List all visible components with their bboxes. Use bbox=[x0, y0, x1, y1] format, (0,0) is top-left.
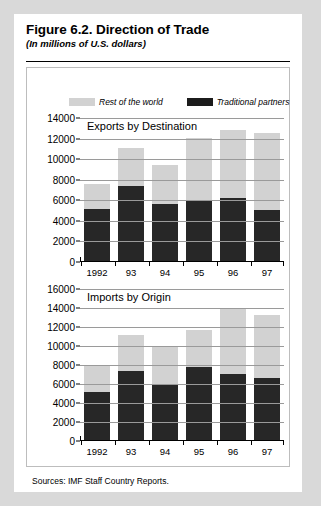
y-axis-tick-mark bbox=[76, 118, 80, 119]
x-axis-tick-label: 1992 bbox=[86, 267, 107, 278]
bar-segment-rest-of-world bbox=[152, 165, 179, 204]
bar-segment-traditional-partners bbox=[118, 186, 145, 262]
bar-segment-traditional-partners bbox=[152, 204, 179, 262]
y-axis-tick-mark bbox=[76, 220, 80, 221]
y-axis-tick-mark bbox=[76, 384, 80, 385]
y-axis-tick-label: 10000 bbox=[47, 154, 75, 165]
gridline bbox=[80, 159, 284, 160]
legend-item-rest-of-world: Rest of the world bbox=[69, 97, 163, 107]
figure-card: Figure 6.2. Direction of Trade (In milli… bbox=[14, 14, 302, 492]
bar-segment-traditional-partners bbox=[84, 209, 111, 262]
y-axis-tick-mark bbox=[76, 289, 80, 290]
y-axis-tick-mark bbox=[76, 422, 80, 423]
bar-segment-traditional-partners bbox=[118, 371, 145, 441]
x-axis-tick-mark bbox=[283, 441, 284, 445]
bar-segment-rest-of-world bbox=[186, 138, 213, 201]
gridline bbox=[80, 327, 284, 328]
gridline bbox=[80, 384, 284, 385]
bar-segment-traditional-partners bbox=[84, 392, 111, 441]
y-axis-tick-label: 16000 bbox=[47, 284, 75, 295]
legend-label-rest-of-world: Rest of the world bbox=[99, 97, 163, 107]
bar-segment-rest-of-world bbox=[186, 330, 213, 367]
legend-item-traditional-partners: Traditional partners bbox=[187, 97, 290, 107]
x-axis-tick-label: 93 bbox=[126, 446, 137, 457]
bar-segment-traditional-partners bbox=[254, 210, 281, 262]
x-axis-tick-label: 93 bbox=[126, 267, 137, 278]
y-axis-tick-label: 14000 bbox=[47, 303, 75, 314]
page-title: Figure 6.2. Direction of Trade bbox=[26, 22, 290, 37]
gridline bbox=[80, 346, 284, 347]
chart-legend: Rest of the world Traditional partners bbox=[69, 97, 299, 107]
y-axis-tick-label: 8000 bbox=[53, 174, 75, 185]
gridline bbox=[80, 241, 284, 242]
y-axis-tick-mark bbox=[76, 241, 80, 242]
bars-exports bbox=[80, 118, 284, 262]
x-axis-tick-label: 96 bbox=[228, 446, 239, 457]
y-axis-tick-mark bbox=[76, 308, 80, 309]
figure-subtitle: (In millions of U.S. dollars) bbox=[26, 38, 290, 50]
gridline bbox=[80, 365, 284, 366]
chart-exports-by-destination: Exports by Destination 02000400060008000… bbox=[14, 110, 321, 282]
source-note: Sources: IMF Staff Country Reports. bbox=[32, 476, 169, 486]
gridline bbox=[80, 118, 284, 119]
x-axis-tick-mark bbox=[115, 441, 116, 445]
bar-segment-rest-of-world bbox=[254, 133, 281, 210]
x-axis-tick-mark bbox=[251, 441, 252, 445]
y-axis-tick-label: 6000 bbox=[53, 379, 75, 390]
y-axis-tick-label: 8000 bbox=[53, 360, 75, 371]
y-axis-tick-label: 12000 bbox=[47, 322, 75, 333]
y-axis-tick-mark bbox=[76, 365, 80, 366]
y-axis-tick-mark bbox=[76, 159, 80, 160]
y-axis-tick-label: 0 bbox=[69, 257, 75, 268]
x-axis-tick-label: 95 bbox=[194, 267, 205, 278]
bar-group-94 bbox=[152, 347, 179, 441]
x-axis-tick-mark bbox=[217, 262, 218, 266]
plot-area-imports: 0200040006000800010000120001400016000199… bbox=[80, 289, 284, 441]
y-axis-tick-label: 2000 bbox=[53, 417, 75, 428]
gridline bbox=[80, 139, 284, 140]
y-axis-tick-label: 2000 bbox=[53, 236, 75, 247]
bar-segment-rest-of-world bbox=[84, 184, 111, 209]
y-axis-tick-label: 4000 bbox=[53, 398, 75, 409]
y-axis-tick-mark bbox=[76, 403, 80, 404]
gridline bbox=[80, 422, 284, 423]
y-axis-tick-mark bbox=[76, 179, 80, 180]
bar-group-97 bbox=[254, 133, 281, 262]
legend-swatch-icon-traditional-partners bbox=[187, 98, 213, 106]
bar-segment-rest-of-world bbox=[84, 366, 111, 392]
x-axis-tick-mark bbox=[283, 262, 284, 266]
bar-group-93 bbox=[118, 148, 145, 262]
x-axis-tick-mark bbox=[217, 441, 218, 445]
figure-page: Figure 6.2. Direction of Trade (In milli… bbox=[0, 0, 321, 506]
y-axis-tick-label: 12000 bbox=[47, 133, 75, 144]
y-axis-tick-mark bbox=[76, 138, 80, 139]
x-axis-tick-mark bbox=[183, 262, 184, 266]
bar-group-1992 bbox=[84, 184, 111, 262]
gridline bbox=[80, 200, 284, 201]
plot-area-exports: 0200040006000800010000120001400019929394… bbox=[80, 118, 284, 262]
bar-segment-traditional-partners bbox=[220, 198, 247, 262]
gridline bbox=[80, 180, 284, 181]
x-axis-line bbox=[80, 261, 284, 262]
x-axis-tick-mark bbox=[115, 262, 116, 266]
x-axis-tick-mark bbox=[149, 441, 150, 445]
x-axis-tick-label: 96 bbox=[228, 267, 239, 278]
legend-label-traditional-partners: Traditional partners bbox=[217, 97, 290, 107]
y-axis-tick-mark bbox=[76, 346, 80, 347]
y-axis-tick-label: 6000 bbox=[53, 195, 75, 206]
chart-imports-by-origin: Imports by Origin 0200040006000800010000… bbox=[14, 282, 321, 460]
bar-segment-traditional-partners bbox=[152, 384, 179, 441]
gridline bbox=[80, 403, 284, 404]
y-axis-tick-label: 4000 bbox=[53, 215, 75, 226]
x-axis-tick-label: 97 bbox=[262, 267, 273, 278]
y-axis-tick-mark bbox=[76, 327, 80, 328]
y-axis-tick-label: 10000 bbox=[47, 341, 75, 352]
x-axis-tick-label: 1992 bbox=[86, 446, 107, 457]
y-axis-tick-mark bbox=[76, 200, 80, 201]
y-axis-tick-label: 14000 bbox=[47, 113, 75, 124]
x-axis-tick-label: 94 bbox=[160, 446, 171, 457]
figure-header: Figure 6.2. Direction of Trade (In milli… bbox=[26, 22, 290, 50]
y-axis-tick-label: 0 bbox=[69, 436, 75, 447]
x-axis-tick-mark bbox=[183, 441, 184, 445]
gridline bbox=[80, 308, 284, 309]
